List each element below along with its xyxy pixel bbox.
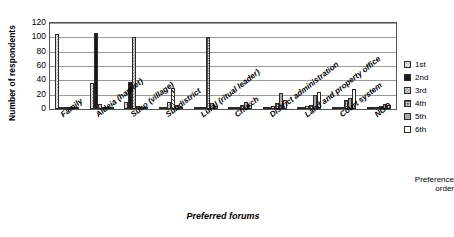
- legend-swatch: [404, 100, 411, 107]
- y-tick-label: 100: [32, 32, 46, 41]
- y-tick-label: 80: [37, 47, 46, 56]
- legend-label: 1st: [415, 61, 426, 69]
- y-tick-label: 60: [37, 61, 46, 70]
- legend-title: Preference order: [398, 175, 454, 193]
- y-axis-title: Number of respondents: [7, 13, 17, 133]
- bar-group: [263, 23, 287, 109]
- bar: [94, 33, 98, 109]
- legend-swatch: [404, 87, 411, 94]
- legend-label: 3rd: [415, 87, 427, 95]
- legend-row: 1st: [404, 58, 454, 71]
- y-tick-label: 120: [32, 18, 46, 27]
- legend-row: 2nd: [404, 71, 454, 84]
- legend-label: 6th: [415, 126, 426, 134]
- legend-swatch: [404, 126, 411, 133]
- bar-chart: Number of respondents 120100806040200 Fa…: [0, 0, 454, 237]
- bar: [55, 34, 59, 109]
- legend-row: 5th: [404, 110, 454, 123]
- legend-swatch: [404, 61, 411, 68]
- bar: [132, 37, 136, 109]
- legend-row: 6th: [404, 123, 454, 136]
- y-tick-label: 0: [41, 104, 46, 113]
- y-tick-label: 20: [37, 90, 46, 99]
- bar-group: [55, 23, 79, 109]
- bar-group: [90, 23, 114, 109]
- legend-row: 4th: [404, 97, 454, 110]
- legend-label: 5th: [415, 113, 426, 121]
- y-tick-label: 40: [37, 75, 46, 84]
- legend: 1st2nd3rd4th5th6th: [404, 58, 454, 136]
- x-axis-title: Preferred forums: [49, 211, 397, 221]
- legend-row: 3rd: [404, 84, 454, 97]
- legend-swatch: [404, 74, 411, 81]
- bar: [206, 37, 210, 109]
- y-axis-tick-labels: 120100806040200: [22, 18, 46, 110]
- legend-swatch: [404, 113, 411, 120]
- legend-label: 4th: [415, 100, 426, 108]
- legend-label: 2nd: [415, 74, 428, 82]
